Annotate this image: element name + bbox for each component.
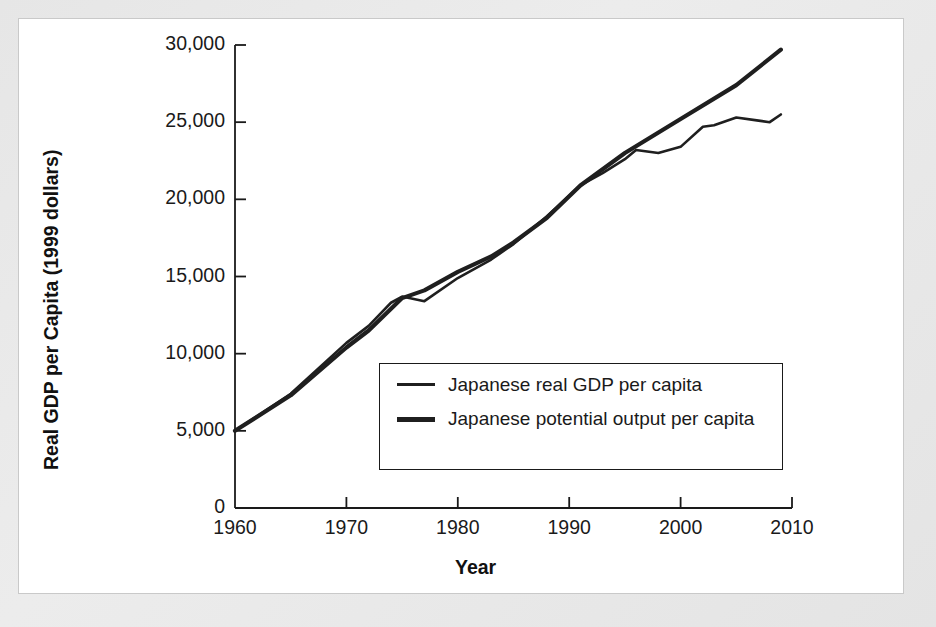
- legend-line-swatch-real: [397, 383, 435, 386]
- y-axis-tick-label: 20,000: [0, 186, 225, 209]
- legend-item: Japanese potential output per capita: [397, 406, 768, 431]
- y-axis-tick-label: 5,000: [0, 418, 225, 441]
- y-axis-tick-label: 15,000: [0, 264, 225, 287]
- figure-root: 05,00010,00015,00020,00025,00030,000 196…: [0, 0, 936, 627]
- x-axis-title: Year: [455, 556, 496, 579]
- legend-label: Japanese real GDP per capita: [448, 372, 768, 397]
- y-axis-tick-label: 0: [0, 495, 225, 518]
- x-axis-tick-label: 1980: [416, 516, 500, 539]
- y-axis-tick-label: 10,000: [0, 341, 225, 364]
- legend-label: Japanese potential output per capita: [448, 406, 768, 431]
- x-axis-tick-label: 1960: [193, 516, 277, 539]
- x-axis-tick-label: 2010: [750, 516, 834, 539]
- y-axis-title: Real GDP per Capita (1999 dollars): [40, 150, 63, 470]
- y-axis-tick-label: 25,000: [0, 109, 225, 132]
- x-axis-tick-label: 1990: [527, 516, 611, 539]
- chart-legend: Japanese real GDP per capita Japanese po…: [379, 363, 783, 470]
- legend-item: Japanese real GDP per capita: [397, 372, 768, 397]
- y-axis-tick-label: 30,000: [0, 32, 225, 55]
- legend-line-swatch-potential: [397, 417, 435, 422]
- x-axis-tick-label: 1970: [304, 516, 388, 539]
- x-axis-tick-label: 2000: [639, 516, 723, 539]
